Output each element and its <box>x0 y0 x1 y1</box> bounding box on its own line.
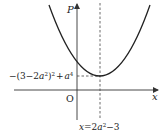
label-part: + <box>56 71 64 81</box>
parabola-diagram: P x O −(3−2a2)2+a4 x=2a2−3 <box>0 0 162 135</box>
vertex-value-label: −(3−2a2)2+a4 <box>9 71 74 82</box>
label-part: −(3−2 <box>9 71 39 81</box>
label-part: −3 <box>106 122 120 132</box>
x-axis-label: x <box>152 91 158 102</box>
label-part: 4 <box>70 71 74 77</box>
parabola-curve <box>49 5 150 76</box>
origin-label: O <box>66 93 74 104</box>
label-part: 2 <box>51 71 55 77</box>
axis-of-symmetry-label: x=2a2−3 <box>79 122 120 133</box>
y-axis-label: P <box>66 4 74 15</box>
label-part: =2 <box>84 122 97 132</box>
